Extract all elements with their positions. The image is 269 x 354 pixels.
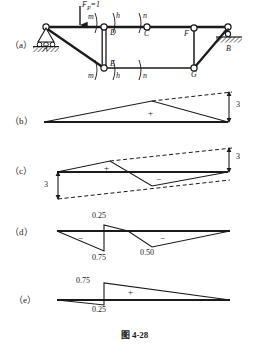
figure-drawing [0,0,269,354]
section-label-h-bottom: h [116,71,120,80]
joint-label-e: E [110,59,115,68]
panel-label-b: （b） [10,114,33,127]
ordinate-value-d-025: 0.25 [92,211,106,220]
section-label-h-top: h [116,11,120,20]
section-cut-n-upper [139,13,141,33]
sign-minus-c: − [156,174,161,184]
figure-caption: 图 4-28 [0,328,269,341]
sign-minus-d-left: − [78,233,83,243]
joint-label-f: F [184,29,189,38]
load-label: FP=1 [82,0,100,11]
ordinate-value-c-right: 3 [236,152,240,161]
ordinate-value-d-075: 0.75 [92,253,106,262]
section-label-n-bottom: n [143,71,147,80]
section-cut-m-upper [95,13,97,33]
influence-line-c [56,147,232,200]
ordinate-value-e-025: 0.25 [92,305,106,314]
dashed-extension-upper-c [110,148,232,161]
truss-diagram [33,6,242,80]
influence-line-e [57,283,230,305]
influence-line-b [44,91,232,123]
influence-curve-d-right [128,231,230,247]
panel-label-e: （e） [14,293,36,306]
joint-label-d: D [110,28,116,37]
sign-plus-b: + [148,108,153,118]
ordinate-value-d-050: 0.50 [140,248,154,257]
panel-label-d: （d） [10,225,33,238]
sign-minus-e: − [84,294,89,304]
section-label-m-top: m [88,12,94,21]
influence-curve-d-left [57,225,128,251]
load-equals: =1 [91,0,100,9]
dashed-extension-lower-c [58,180,230,199]
ordinate-value-b-right: 3 [236,100,240,109]
truss-diagonal-right [194,28,228,68]
ordinate-value-c-left: 3 [44,180,48,189]
joint-label-b: B [226,44,231,53]
influence-curve-c [57,161,228,186]
sign-plus-c: + [104,163,109,173]
sign-minus-d-right: − [160,233,165,243]
panel-label-a: （a） [10,38,32,51]
influence-curve-b [44,101,228,122]
joint-e [101,65,107,71]
figure-container: （a） （b） （c） （d） （e） FP=1 A D E C F G B m… [0,0,269,354]
section-label-n-top: n [143,11,147,20]
panel-label-c: （c） [10,164,32,177]
section-label-m-bottom: m [88,71,94,80]
influence-curve-e [57,283,230,305]
joint-label-a: A [43,44,48,53]
dashed-extension-b [152,92,232,101]
joint-d [101,24,107,30]
joint-f [191,25,197,31]
sign-plus-e: + [128,287,133,297]
section-cut-n-lower [139,60,141,80]
joint-label-g: G [191,70,197,79]
ordinate-value-e-075: 0.75 [76,276,90,285]
joint-label-c: C [144,29,149,38]
